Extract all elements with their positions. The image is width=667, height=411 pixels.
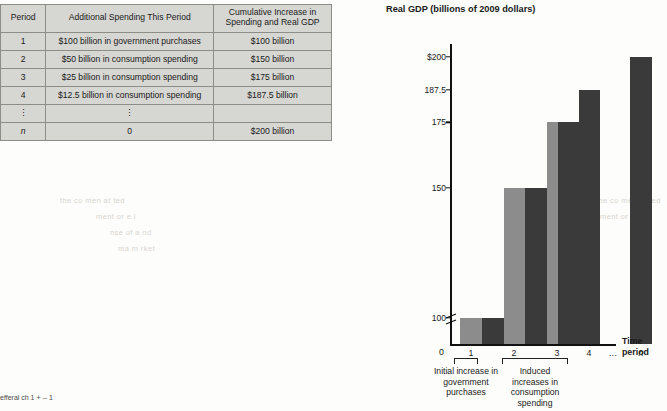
bar-period-1-light (460, 318, 482, 344)
bar-period-n-dark (630, 57, 652, 344)
real-gdp-bar-chart: Real GDP (billions of 2009 dollars) $200… (368, 0, 667, 411)
cell-period: 2 (1, 50, 46, 68)
y-tick-mark-200 (446, 56, 450, 57)
background-bleed-text: ment or e l (96, 212, 136, 221)
table-row: 1 $100 billion in government purchases $… (1, 32, 332, 50)
annotation-induced-increases: Induced increases in consumption spendin… (502, 366, 568, 409)
table-header-row: Period Additional Spending This Period C… (1, 5, 332, 33)
table-row: 3 $25 billion in consumption spending $1… (1, 68, 332, 86)
y-tick-mark-175 (446, 122, 450, 123)
cell-cumulative: $100 billion (214, 32, 332, 50)
y-tick-label-200: $200 (427, 52, 446, 62)
x-axis-title-text: Time period (622, 336, 649, 357)
y-tick-mark-150 (446, 187, 450, 188)
cell-cumulative-ellipsis (214, 104, 332, 122)
y-tick-label-150: 150 (432, 183, 446, 193)
axis-break-icon (445, 312, 457, 326)
chart-title: Real GDP (billions of 2009 dollars) (386, 4, 535, 16)
chart-title-text: Real GDP (billions of 2009 dollars) (386, 4, 535, 14)
y-tick-label-100: 100 (432, 313, 446, 323)
bar-period-3-dark (558, 122, 579, 344)
multiplier-table-panel: Period Additional Spending This Period C… (0, 4, 332, 141)
footer-note: efferal ch 1 + -- 1 (0, 394, 53, 401)
bar-period-2-light (504, 188, 525, 345)
table-header-spending: Additional Spending This Period (46, 5, 214, 33)
y-tick-label-175: 175 (432, 117, 446, 127)
bar-period-2-dark (525, 188, 547, 345)
multiplier-table: Period Additional Spending This Period C… (0, 4, 332, 141)
plot-area: $200 187.5 175 150 100 1 2 3 4 … 0 (450, 44, 616, 344)
y-tick-label-1875: 187.5 (424, 85, 446, 95)
cell-spending: $100 billion in government purchases (46, 32, 214, 50)
y-tick-mark-100 (446, 317, 450, 318)
cell-spending: $12.5 billion in consumption spending (46, 86, 214, 104)
table-row: 2 $50 billion in consumption spending $1… (1, 50, 332, 68)
brace-induced-increases (502, 358, 568, 364)
brace-initial-increase (454, 358, 478, 364)
x-tick-label-4: 4 (587, 348, 592, 358)
y-tick-mark-1875 (446, 89, 450, 90)
cell-cumulative: $200 billion (214, 122, 332, 140)
background-bleed-text: ma m rket (118, 244, 155, 253)
cell-period: 3 (1, 68, 46, 86)
cell-period: n (1, 122, 46, 140)
x-axis-title: Time period (622, 336, 667, 357)
bar-period-4-dark (579, 90, 600, 344)
background-bleed-text: nse of a nd (110, 228, 152, 237)
cell-period-ellipsis: ⋮ (1, 104, 46, 122)
cell-period: 1 (1, 32, 46, 50)
x-tick-label-ellipsis: … (609, 348, 618, 358)
cell-spending: $50 billion in consumption spending (46, 50, 214, 68)
annotation-initial-increase: Initial increase in government purchases (426, 366, 506, 398)
origin-label: 0 (439, 347, 444, 357)
table-row: 4 $12.5 billion in consumption spending … (1, 86, 332, 104)
table-header-period: Period (1, 5, 46, 33)
bar-period-3-light (547, 122, 558, 344)
x-tick-label-2: 2 (512, 348, 517, 358)
table-row-ellipsis: ⋮ ⋮ (1, 104, 332, 122)
table-row: n 0 $200 billion (1, 122, 332, 140)
cell-cumulative: $187.5 billion (214, 86, 332, 104)
cell-spending-ellipsis: ⋮ (46, 104, 214, 122)
cell-spending: $25 billion in consumption spending (46, 68, 214, 86)
y-axis (450, 44, 452, 344)
background-bleed-text: the co men at ted (60, 196, 125, 205)
cell-cumulative: $175 billion (214, 68, 332, 86)
x-tick-label-3: 3 (555, 348, 560, 358)
table-header-cumulative: Cumulative Increase in Spending and Real… (214, 5, 332, 33)
x-axis (450, 344, 616, 346)
bar-period-1-dark (482, 318, 504, 344)
x-tick-label-1: 1 (469, 348, 474, 358)
cell-spending: 0 (46, 122, 214, 140)
cell-cumulative: $150 billion (214, 50, 332, 68)
cell-period: 4 (1, 86, 46, 104)
